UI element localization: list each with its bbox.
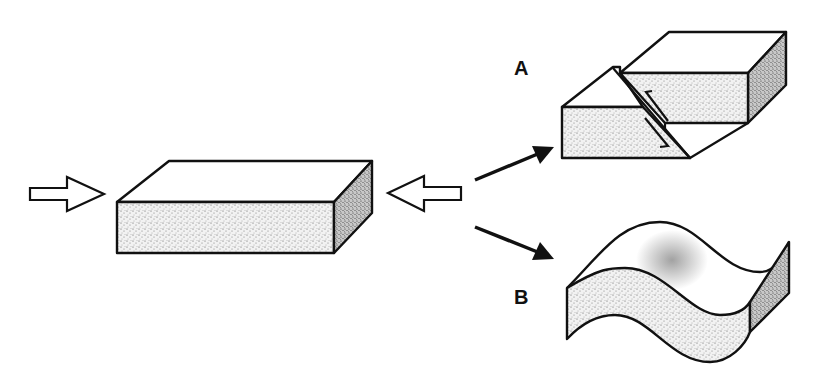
deformation-diagram <box>0 0 818 387</box>
compression-arrow-right <box>388 176 461 211</box>
arrow-to-fold-B <box>475 227 554 260</box>
compression-arrow-left <box>30 177 104 211</box>
block-front-face <box>117 202 334 253</box>
fold-side-face <box>750 242 789 332</box>
fault-block-A <box>562 32 786 158</box>
label-fault-A: A <box>514 57 528 80</box>
block-top-face <box>117 161 372 202</box>
label-fold-B: B <box>514 286 528 309</box>
arrow-to-fault-A <box>475 146 554 180</box>
original-rock-block <box>117 161 372 253</box>
fold-B <box>567 222 789 362</box>
